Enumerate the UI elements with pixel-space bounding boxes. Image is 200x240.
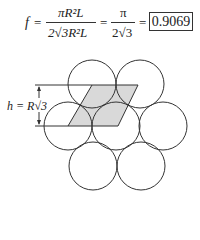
circle	[116, 60, 164, 108]
arrowhead-down-icon	[37, 120, 41, 125]
circle	[69, 142, 117, 190]
arrowhead-up-icon	[37, 86, 41, 91]
height-label: h = R√3	[7, 99, 47, 114]
height-label-text: h = R√3	[7, 99, 47, 113]
circle	[117, 142, 165, 190]
